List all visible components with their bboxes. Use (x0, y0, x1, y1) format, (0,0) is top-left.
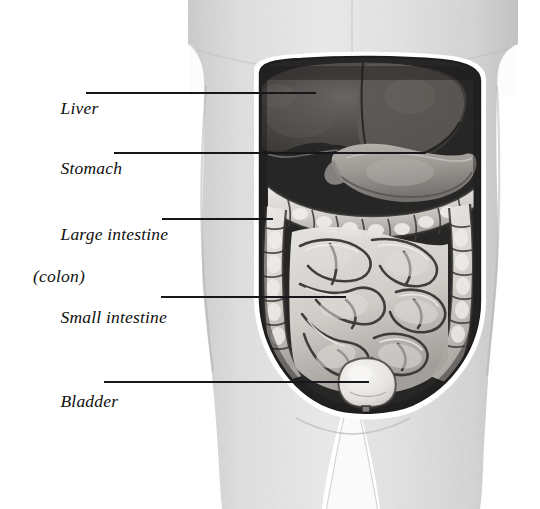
label-liver[interactable]: Liver (33, 77, 98, 140)
label-liver-text: Liver (60, 98, 98, 118)
label-bladder[interactable]: Bladder (33, 370, 118, 433)
anatomy-figure: Liver Stomach Large intestine (colon) Sm… (0, 0, 540, 509)
label-stomach-text: Stomach (60, 158, 122, 178)
label-small-intestine-text: Small intestine (60, 307, 167, 327)
abdominal-cavity (254, 52, 486, 424)
label-stomach[interactable]: Stomach (33, 137, 122, 200)
label-large-intestine-subtext: (colon) (33, 266, 168, 287)
label-bladder-text: Bladder (60, 391, 118, 411)
label-large-intestine-text: Large intestine (60, 224, 168, 244)
label-small-intestine[interactable]: Small intestine (33, 286, 167, 349)
